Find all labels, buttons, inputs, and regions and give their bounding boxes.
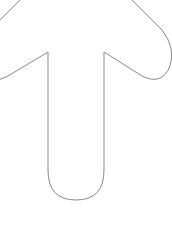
arrow-up-shape bbox=[0, 0, 172, 241]
arrow-up-icon bbox=[0, 0, 172, 241]
